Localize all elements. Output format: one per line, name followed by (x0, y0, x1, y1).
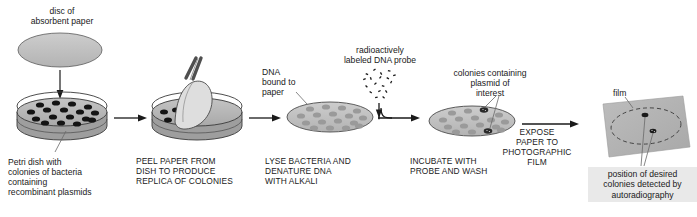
absorbent-paper-disc (18, 33, 102, 67)
label-position-of-desired-colonies: position of desired colonies detected by… (588, 167, 697, 202)
label-incubate-with-probe: INCUBATE WITH PROBE AND WASH (410, 157, 487, 177)
peel-paper-replica (152, 58, 242, 140)
arrow-dish-to-peel (114, 114, 147, 121)
label-peel-paper: PEEL PAPER FROM DISH TO PRODUCE REPLICA … (136, 157, 233, 187)
arrow-lyse-to-incubate (378, 108, 420, 122)
label-expose-paper: EXPOSE PAPER TO PHOTOGRAPHIC FILM (500, 128, 574, 168)
label-disc-of-absorbent-paper: disc of absorbent paper (17, 6, 107, 26)
arrow-peel-to-lyse (249, 114, 281, 121)
lyse-denature-disc (287, 92, 373, 132)
label-colonies-containing-plasmid: colonies containing plasmid of interest (435, 68, 545, 98)
label-petri-dish-caption: Petri dish with colonies of bacteria con… (8, 157, 92, 198)
label-film: film (613, 88, 626, 98)
radioactive-probe-particles (363, 69, 396, 99)
label-lyse-bacteria: LYSE BACTERIA AND DENATURE DNA WITH ALKA… (265, 157, 351, 187)
petri-dish-colonies (17, 92, 107, 152)
autoradiograph-film (603, 96, 690, 166)
arrow-disc-to-dish (57, 70, 64, 99)
label-dna-bound-to-paper: DNA bound to paper (262, 67, 295, 97)
label-radioactive-probe: radioactively labeled DNA probe (325, 45, 435, 65)
